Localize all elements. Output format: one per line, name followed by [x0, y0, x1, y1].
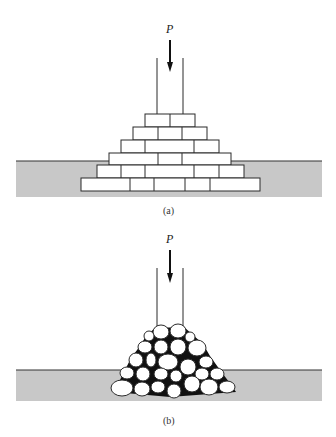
particle: [151, 381, 165, 393]
diagram-a-brick-pyramid: P (a): [16, 22, 322, 217]
diagram-b-particle-pile: P (b): [16, 232, 322, 427]
particle: [210, 368, 224, 380]
load-arrow-icon: [167, 250, 173, 283]
particle: [170, 370, 182, 382]
particle-pile: [111, 324, 235, 398]
particle: [200, 379, 218, 395]
brick-row: [81, 178, 260, 191]
particle: [146, 353, 156, 367]
brick-row: [121, 140, 219, 153]
particle: [170, 324, 186, 338]
particle: [219, 381, 235, 393]
load-label-p: P: [165, 232, 174, 246]
foundation-diagram: P (a) P (b): [0, 0, 336, 437]
brick-row: [97, 165, 244, 178]
particle: [199, 356, 213, 368]
particle: [134, 382, 150, 396]
particle: [154, 368, 168, 380]
particle: [153, 325, 169, 339]
particle: [188, 340, 206, 356]
particle: [144, 331, 154, 341]
particle: [154, 340, 168, 354]
brick-row: [109, 153, 231, 165]
particle: [136, 367, 150, 381]
load-label-p: P: [165, 22, 174, 36]
particle: [129, 353, 143, 367]
brick-row: [133, 127, 207, 140]
particle: [180, 359, 196, 375]
brick-pyramid: [81, 114, 260, 191]
load-arrow-icon: [167, 40, 173, 72]
particle: [111, 380, 133, 396]
particle: [167, 384, 181, 398]
particle: [120, 367, 134, 379]
caption-a: (a): [163, 205, 174, 217]
caption-b: (b): [163, 415, 175, 427]
particle: [170, 339, 186, 355]
particle: [184, 376, 200, 392]
particle: [138, 341, 152, 353]
